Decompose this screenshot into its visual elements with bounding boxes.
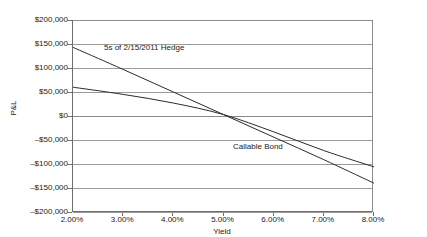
- series-line: [73, 87, 374, 167]
- y-axis-tick-label: –$150,000: [0, 184, 68, 192]
- x-axis-tick-label: 4.00%: [145, 216, 199, 224]
- series-label-hedge: 5s of 2/15/2011 Hedge: [104, 44, 184, 52]
- y-axis-tick-label: –$50,000: [0, 136, 68, 144]
- x-axis-tick-mark: [373, 212, 374, 216]
- series-line: [73, 47, 374, 183]
- x-axis-tick-label: 6.00%: [246, 216, 300, 224]
- y-axis-tick-label: $50,000: [0, 88, 68, 96]
- x-axis-tick-label: 8.00%: [346, 216, 400, 224]
- y-axis-tick-label: $0: [0, 112, 68, 120]
- y-axis-tick-label: $200,000: [0, 16, 68, 24]
- x-axis-tick-label: 7.00%: [296, 216, 350, 224]
- y-axis-tick-mark: [67, 212, 72, 213]
- y-axis-tick-label: –$200,000: [0, 208, 68, 216]
- x-axis-tick-label: 5.00%: [196, 216, 250, 224]
- series-label-callable: Callable Bond: [233, 143, 283, 151]
- x-axis-title: Yield: [195, 228, 249, 236]
- chart-container: P&L Yield $200,000$150,000$100,000$50,00…: [0, 0, 427, 237]
- y-axis-tick-label: $100,000: [0, 64, 68, 72]
- y-axis-tick-label: –$100,000: [0, 160, 68, 168]
- x-axis-tick-label: 3.00%: [95, 216, 149, 224]
- y-axis-tick-label: $150,000: [0, 40, 68, 48]
- x-axis-tick-label: 2.00%: [45, 216, 99, 224]
- gridline: [73, 212, 372, 213]
